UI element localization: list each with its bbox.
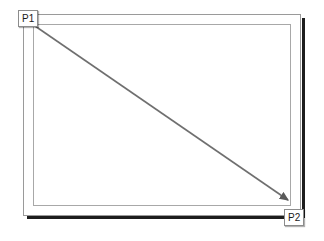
point-label-p2: P2 <box>284 209 304 226</box>
point-label-p2-text: P2 <box>288 212 300 223</box>
diagram-canvas: P1 P2 <box>0 0 324 241</box>
frame-shadow-right <box>302 18 305 218</box>
display-screen-rectangle <box>33 24 291 206</box>
frame-shadow-bottom <box>27 216 303 219</box>
point-label-p1-text: P1 <box>22 13 34 24</box>
point-label-p1: P1 <box>18 10 38 27</box>
